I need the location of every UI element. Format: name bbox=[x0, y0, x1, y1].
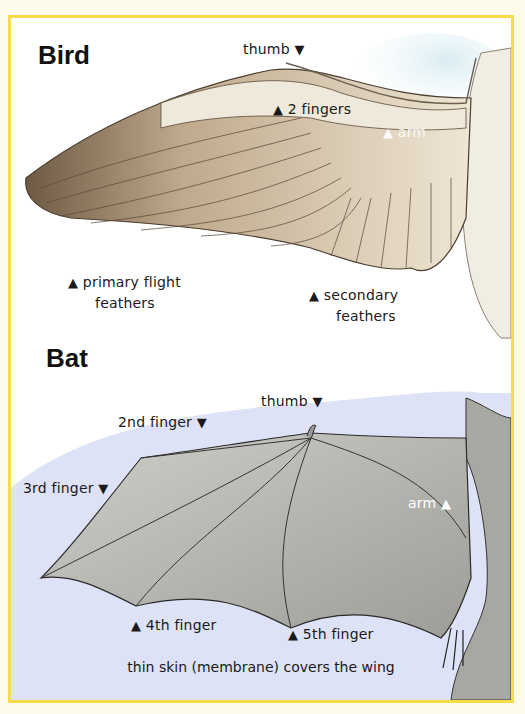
arrow-down-icon: ▼ bbox=[197, 415, 207, 430]
arrow-up-icon: ▲ bbox=[273, 102, 283, 117]
bird-title: Bird bbox=[38, 40, 90, 71]
bat-arm-label: arm ▲ bbox=[408, 494, 451, 513]
arrow-up-icon: ▲ bbox=[441, 496, 451, 511]
bat-finger5-label: ▲ 5th finger bbox=[288, 625, 374, 644]
arrow-up-icon: ▲ bbox=[288, 627, 298, 642]
secondary-feathers-label-2: feathers bbox=[336, 307, 396, 325]
bat-thumb-label: thumb ▼ bbox=[261, 392, 323, 411]
arrow-down-icon: ▼ bbox=[294, 42, 304, 57]
arrow-up-icon: ▲ bbox=[383, 125, 393, 140]
arrow-up-icon: ▲ bbox=[131, 618, 141, 633]
secondary-feathers-label: ▲ secondary bbox=[309, 286, 398, 305]
arrow-up-icon: ▲ bbox=[309, 288, 319, 303]
membrane-caption: thin skin (membrane) covers the wing bbox=[11, 659, 511, 675]
bat-finger2-label: 2nd finger ▼ bbox=[118, 413, 207, 432]
bird-thumb-label: thumb ▼ bbox=[243, 40, 305, 59]
bat-title: Bat bbox=[46, 343, 88, 374]
primary-feathers-label-2: feathers bbox=[95, 294, 155, 312]
illustration-frame: Bird thumb ▼ ▲ 2 fingers ▲ arm ▲ primary… bbox=[8, 15, 514, 703]
bird-arm-label: ▲ arm bbox=[383, 123, 426, 142]
arrow-down-icon: ▼ bbox=[98, 481, 108, 496]
arrow-up-icon: ▲ bbox=[68, 275, 78, 290]
primary-feathers-label: ▲ primary flight bbox=[68, 273, 181, 292]
arrow-down-icon: ▼ bbox=[312, 394, 322, 409]
bat-finger3-label: 3rd finger ▼ bbox=[23, 479, 109, 498]
bat-finger4-label: ▲ 4th finger bbox=[131, 616, 217, 635]
bird-fingers-label: ▲ 2 fingers bbox=[273, 100, 351, 119]
